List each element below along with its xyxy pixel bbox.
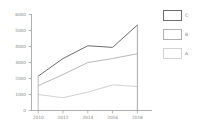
chart-figure: 6000 5000 4000 3000 2000 1000 0 2010 201…: [0, 0, 203, 133]
legend-swatch-a: [163, 48, 182, 59]
x-tick-label-2016: 2016: [102, 115, 124, 120]
series-line-a: [38, 85, 137, 98]
y-tick-label-1000: 1000: [2, 92, 26, 97]
series-line-c: [38, 25, 137, 76]
y-tick-label-3000: 3000: [2, 60, 26, 65]
x-tick-label-2018: 2018: [126, 115, 148, 120]
y-axis-ticks: [29, 15, 32, 111]
x-tick-label-2012: 2012: [52, 115, 74, 120]
y-tick-label-4000: 4000: [2, 44, 26, 49]
x-tick-label-2014: 2014: [77, 115, 99, 120]
x-axis-ticks: [38, 111, 137, 114]
legend-label-b: B: [185, 32, 188, 37]
legend-swatch-b: [163, 29, 182, 40]
x-tick-label-2010: 2010: [27, 115, 49, 120]
legend-swatch-c: [163, 10, 182, 21]
y-tick-label-5000: 5000: [2, 28, 26, 33]
series-line-b: [38, 54, 137, 86]
legend-label-c: C: [185, 13, 188, 18]
y-tick-label-2000: 2000: [2, 76, 26, 81]
y-tick-label-0: 0: [2, 108, 26, 113]
y-tick-label-6000: 6000: [2, 12, 26, 17]
legend-label-a: A: [185, 51, 188, 56]
